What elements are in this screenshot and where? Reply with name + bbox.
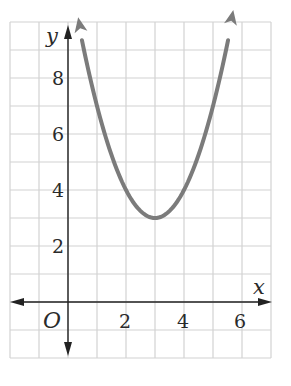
x-axis-label: x [253, 275, 265, 299]
x-tick-label-4: 4 [177, 310, 189, 332]
origin-label: O [43, 308, 61, 333]
y-axis-label: y [45, 24, 59, 48]
y-tick-label-2: 2 [52, 235, 64, 257]
y-axis-down-arrow-icon [64, 342, 72, 356]
x-tick-label-2: 2 [119, 310, 131, 332]
y-tick-label-8: 8 [52, 67, 64, 89]
y-tick-label-6: 6 [52, 123, 64, 145]
y-tick-label-4: 4 [52, 179, 64, 201]
curve-left-arrow-icon [75, 17, 88, 33]
x-tick-label-6: 6 [234, 310, 246, 332]
x-axis-right-arrow-icon [258, 298, 272, 306]
parabola-graph: y x O 8 6 4 2 2 4 6 [0, 0, 291, 386]
y-axis-up-arrow-icon [64, 25, 72, 39]
x-axis-left-arrow-icon [10, 298, 24, 306]
curve-right-arrow-icon [224, 10, 237, 26]
